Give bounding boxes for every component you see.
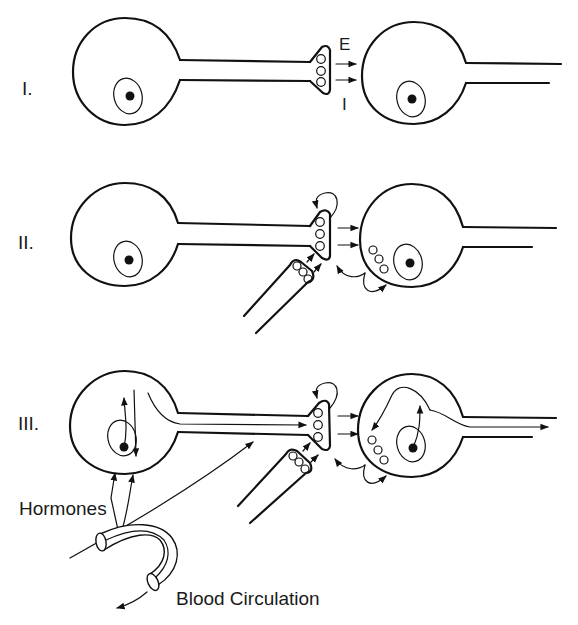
axon-lower (178, 432, 308, 435)
hormone-arrow-to-soma (111, 473, 118, 530)
vesicle (317, 67, 326, 76)
axon-upper (180, 60, 310, 62)
vesicle (380, 265, 388, 273)
vesicle (375, 255, 383, 263)
postsynaptic-neuron-2 (337, 184, 556, 291)
vesicle (380, 456, 388, 464)
vesicle (374, 446, 382, 454)
modulatory-axon-2 (244, 254, 321, 333)
vesicle (314, 409, 323, 418)
modulation-arrow (303, 443, 310, 451)
modulatory-axon-3 (238, 443, 318, 523)
nucleolus (408, 95, 417, 104)
soma-outline (73, 18, 180, 125)
retrograde-arrow (335, 459, 365, 469)
postsynaptic-neuron-3 (335, 374, 556, 483)
panel-3-label: III. (18, 413, 39, 434)
blood-vessel (95, 525, 178, 608)
nucleolus (125, 256, 134, 265)
label-inhibitory: I (342, 95, 347, 114)
axon-lower (178, 244, 310, 246)
vesicle (317, 78, 326, 87)
vesicle (299, 268, 307, 276)
nuclear-signal-arrow (124, 398, 126, 447)
soma-outline (71, 183, 178, 286)
vesicle (295, 458, 303, 466)
panel-2: II. (18, 183, 556, 333)
axon-upper (178, 413, 308, 416)
vesicle (316, 218, 325, 227)
vesicle (369, 246, 377, 254)
nucleolus (126, 92, 135, 101)
presynaptic-neuron-1 (73, 18, 330, 125)
circulation-arrow (117, 592, 147, 608)
vesicle (301, 465, 309, 473)
retrograde-transport-arrow (372, 387, 430, 430)
retrograde-arrow (364, 465, 386, 483)
soma-outline (362, 22, 466, 124)
retrograde-arrow (337, 266, 365, 277)
vesicle (317, 55, 326, 64)
modulation-arrow (307, 254, 314, 262)
hormone-arrow-to-soma (122, 475, 133, 530)
modulation-arrow (314, 264, 321, 272)
vesicle (314, 433, 323, 442)
panel-3: III. (18, 371, 556, 609)
panel-2-label: II. (18, 232, 34, 253)
hormones-label: Hormones (19, 498, 107, 519)
soma-outline (70, 371, 178, 474)
nucleolus (406, 259, 415, 268)
axon-terminal (308, 401, 330, 450)
neuron-synapse-diagram: I. E I II. (0, 0, 578, 625)
soma-outline (360, 184, 463, 287)
vesicle (368, 436, 376, 444)
vesicle (314, 421, 323, 430)
vesicle (316, 230, 325, 239)
axon-upper (463, 227, 556, 228)
axon-lower (180, 80, 310, 81)
blood-circulation-label: Blood Circulation (176, 588, 320, 609)
panel-1-label: I. (22, 78, 33, 99)
axon-upper (466, 63, 561, 64)
modulation-arrow (311, 455, 318, 462)
axon-upper (463, 417, 556, 418)
vesicle (316, 242, 325, 251)
postsynaptic-neuron-1 (362, 22, 561, 124)
label-excitatory: E (339, 35, 350, 54)
axon-upper (178, 223, 310, 226)
panel-1: I. E I (22, 18, 561, 125)
axon-terminal (310, 46, 330, 94)
